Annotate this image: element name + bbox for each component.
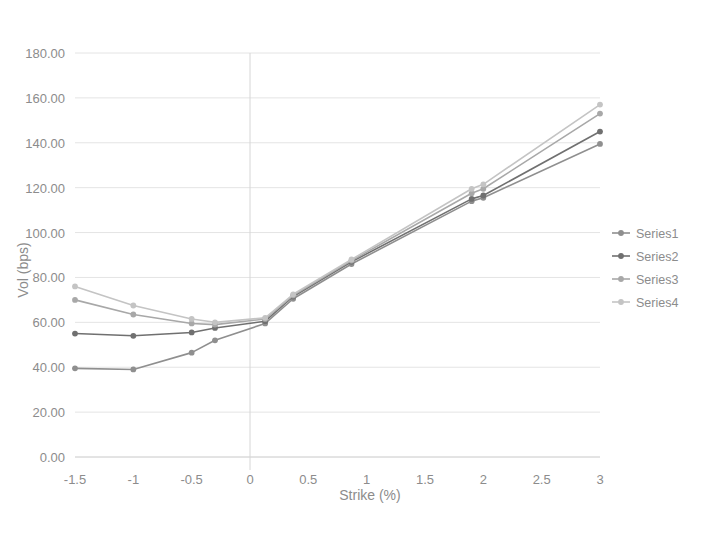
x-tick-label-5: 1: [363, 472, 370, 487]
x-axis-tick-labels: -1.5-1-0.500.511.522.53: [64, 472, 604, 487]
axis-lines-group: [75, 53, 600, 470]
data-point-marker: [72, 365, 78, 371]
data-point-marker: [72, 284, 78, 290]
y-tick-label-1: 20.00: [32, 405, 65, 420]
line-chart: 0.0020.0040.0060.0080.00100.00120.00140.…: [0, 0, 715, 537]
y-tick-label-2: 40.00: [32, 360, 65, 375]
legend-label: Series1: [636, 227, 678, 241]
data-point-marker: [130, 367, 136, 373]
y-tick-label-6: 120.00: [25, 181, 65, 196]
data-point-marker: [597, 129, 603, 135]
data-point-marker: [72, 331, 78, 337]
chart-container: 0.0020.0040.0060.0080.00100.00120.00140.…: [0, 0, 715, 537]
x-tick-label-2: -0.5: [180, 472, 202, 487]
x-axis-title: Strike (%): [339, 487, 400, 503]
data-point-marker: [130, 333, 136, 339]
y-axis-title: Vol (bps): [15, 242, 31, 297]
legend-marker-icon: [618, 253, 624, 259]
data-point-marker: [349, 257, 355, 263]
series-line-4: [75, 105, 600, 323]
y-tick-label-4: 80.00: [32, 270, 65, 285]
data-point-marker: [262, 315, 268, 321]
x-tick-label-3: 0: [246, 472, 253, 487]
data-point-marker: [597, 141, 603, 147]
legend-label: Series4: [636, 296, 678, 310]
data-point-marker: [130, 312, 136, 318]
legend-label: Series3: [636, 273, 678, 287]
legend-marker-icon: [618, 230, 624, 236]
series-4: [72, 102, 603, 326]
series-line-1: [75, 144, 600, 370]
y-tick-label-7: 140.00: [25, 136, 65, 151]
data-point-marker: [212, 319, 218, 325]
x-tick-label-6: 1.5: [416, 472, 434, 487]
y-axis-tick-labels: 0.0020.0040.0060.0080.00100.00120.00140.…: [25, 46, 65, 465]
data-point-marker: [597, 102, 603, 108]
y-tick-label-5: 100.00: [25, 226, 65, 241]
series-2: [72, 129, 603, 339]
x-tick-label-0: -1.5: [64, 472, 86, 487]
data-point-marker: [189, 330, 195, 336]
y-tick-label-3: 60.00: [32, 315, 65, 330]
x-tick-label-7: 2: [480, 472, 487, 487]
legend-marker-icon: [618, 299, 624, 305]
y-tick-label-8: 160.00: [25, 91, 65, 106]
legend-item-series3[interactable]: Series3: [612, 273, 678, 287]
legend: Series1Series2Series3Series4: [612, 227, 678, 310]
legend-item-series4[interactable]: Series4: [612, 296, 678, 310]
data-point-marker: [480, 181, 486, 187]
x-tick-label-1: -1: [128, 472, 140, 487]
data-point-marker: [597, 111, 603, 117]
legend-marker-icon: [618, 276, 624, 282]
series-line-3: [75, 114, 600, 325]
data-point-marker: [469, 186, 475, 192]
series-1: [72, 141, 603, 372]
data-point-marker: [290, 291, 296, 297]
series-line-2: [75, 132, 600, 336]
gridlines-group: [75, 53, 600, 457]
data-point-marker: [189, 316, 195, 322]
legend-label: Series2: [636, 250, 678, 264]
x-tick-label-4: 0.5: [299, 472, 317, 487]
data-point-marker: [130, 303, 136, 309]
x-tick-label-9: 3: [596, 472, 603, 487]
data-point-marker: [469, 196, 475, 202]
data-point-marker: [212, 337, 218, 343]
data-point-marker: [72, 297, 78, 303]
data-point-marker: [480, 193, 486, 199]
x-tick-label-8: 2.5: [533, 472, 551, 487]
y-tick-label-9: 180.00: [25, 46, 65, 61]
legend-item-series1[interactable]: Series1: [612, 227, 678, 241]
y-tick-label-0: 0.00: [40, 450, 65, 465]
legend-item-series2[interactable]: Series2: [612, 250, 678, 264]
data-point-marker: [189, 350, 195, 356]
